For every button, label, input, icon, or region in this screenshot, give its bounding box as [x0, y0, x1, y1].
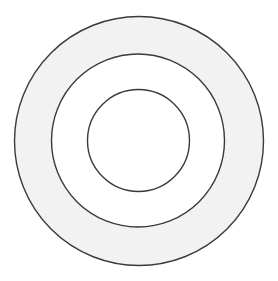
diagram-canvas — [0, 0, 278, 281]
inner-circle — [88, 90, 190, 192]
concentric-circles-diagram — [0, 0, 278, 281]
